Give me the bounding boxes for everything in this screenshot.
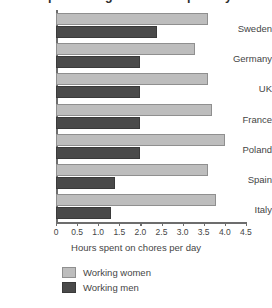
category-label-spain: Spain [220, 174, 272, 185]
x-tick-4 [140, 222, 141, 226]
bar-spain-women [56, 164, 208, 176]
plot-area: SwedenGermanyUKFrancePolandSpainItaly [0, 10, 272, 222]
legend-swatch-icon [62, 282, 76, 293]
x-tick-5 [162, 222, 163, 226]
chart-legend: Working womenWorking men [62, 265, 151, 295]
x-axis-line [56, 222, 247, 224]
bar-italy-women [56, 194, 216, 206]
bar-france-men [56, 117, 140, 129]
bar-italy-men [56, 207, 111, 219]
legend-item-men[interactable]: Working men [62, 280, 151, 295]
x-tick-2 [98, 222, 99, 226]
bar-spain-men [56, 177, 115, 189]
bar-poland-women [56, 134, 225, 146]
category-label-sweden: Sweden [220, 23, 272, 34]
bar-poland-men [56, 147, 140, 159]
x-tick-6 [183, 222, 184, 226]
x-tick-3 [119, 222, 120, 226]
x-tick-9 [246, 222, 247, 226]
x-tick-0 [56, 222, 57, 226]
legend-item-women[interactable]: Working women [62, 265, 151, 280]
bar-sweden-women [56, 13, 208, 25]
x-tick-7 [204, 222, 205, 226]
x-tick-8 [225, 222, 226, 226]
category-label-poland: Poland [220, 144, 272, 155]
x-tick-1 [77, 222, 78, 226]
chart-title: Time spent doing housework per day [8, 0, 266, 3]
category-label-france: France [220, 114, 272, 125]
bar-uk-women [56, 73, 208, 85]
bar-germany-women [56, 43, 195, 55]
bar-france-women [56, 104, 212, 116]
category-label-italy: Italy [220, 204, 272, 215]
x-axis-title: Hours spent on chores per day [0, 242, 272, 253]
bar-uk-men [56, 86, 140, 98]
bar-sweden-men [56, 26, 157, 38]
bar-germany-men [56, 56, 140, 68]
legend-swatch-icon [62, 267, 76, 278]
x-tick-label-9: 4.5 [234, 227, 258, 237]
category-label-germany: Germany [220, 53, 272, 64]
legend-label: Working women [83, 267, 151, 278]
bar-chart: Time spent doing housework per day Swede… [0, 0, 272, 308]
legend-label: Working men [83, 282, 139, 293]
category-label-uk: UK [220, 83, 272, 94]
